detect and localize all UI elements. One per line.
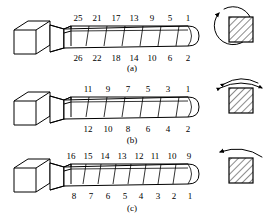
tooth-number: 2 [172,191,177,201]
tooth-number: 7 [89,191,94,201]
single-arc-arrow [220,149,262,157]
tooth-number: 5 [168,13,173,23]
double-headed-arc-arrow [220,83,262,88]
tooth-number: 8 [126,124,131,134]
tooth-number: 9 [106,84,111,94]
tooth-number: 14 [101,151,111,161]
tooth-number: 1 [188,191,193,201]
panel-c-cross-section [220,149,262,183]
tooth-number: 6 [146,124,151,134]
tooth-number: 10 [168,151,178,161]
tooth-number: 11 [84,84,93,94]
panel-c-handle-block [14,159,71,192]
tooth-number: 5 [123,191,128,201]
panel-c-segmented-bar [64,164,199,186]
tooth-number: 25 [74,13,84,23]
tooth-number: 1 [186,13,191,23]
panel-b-bottom-numbers: 12 10 8 6 4 2 [84,124,191,134]
tooth-number: 1 [186,84,191,94]
tooth-number: 8 [72,191,77,201]
tooth-number: 4 [139,191,144,201]
tooth-number: 12 [84,124,93,134]
panel-b-cross-section [220,79,262,113]
tooth-number: 22 [93,53,102,63]
panel-a-bottom-numbers: 26 22 18 14 10 6 2 [74,53,191,63]
panel-c: 16 15 14 13 12 11 10 9 8 7 6 5 4 3 2 1 (… [14,149,262,213]
tooth-number: 7 [126,84,131,94]
panel-caption-a: (a) [127,63,137,73]
tooth-number: 17 [112,13,122,23]
panel-a-top-numbers: 25 21 17 13 9 5 1 [74,13,191,23]
panel-a-cross-section [214,7,253,45]
panel-b-top-numbers: 11 9 7 5 3 1 [84,84,191,94]
panel-a: 25 21 17 13 9 5 1 26 22 18 14 10 6 2 (a) [14,7,253,73]
figure-container: 25 21 17 13 9 5 1 26 22 18 14 10 6 2 (a) [0,0,271,219]
tooth-number: 21 [93,13,102,23]
tooth-number: 12 [135,151,144,161]
tooth-number: 3 [156,191,161,201]
panel-b-handle-block [14,92,71,125]
tooth-number: 26 [74,53,84,63]
hatched-square [229,158,253,183]
panel-caption-c: (c) [127,203,137,213]
tooth-number: 3 [166,84,171,94]
panel-a-handle-block [14,21,71,54]
panel-caption-b: (b) [127,135,138,145]
tooth-number: 16 [67,151,77,161]
segmented-tool-diagram: 25 21 17 13 9 5 1 26 22 18 14 10 6 2 (a) [0,0,271,219]
tooth-number: 15 [84,151,94,161]
tooth-number: 18 [112,53,122,63]
tooth-number: 10 [104,124,114,134]
tooth-number: 14 [130,53,140,63]
panel-a-segmented-bar [64,26,199,48]
tooth-number: 2 [186,53,191,63]
panel-b: 11 9 7 5 3 1 12 10 8 6 4 2 (b) [14,79,262,145]
hatched-square [229,17,253,42]
tooth-number: 11 [151,151,160,161]
tooth-number: 13 [130,13,140,23]
hatched-square [229,88,253,113]
tooth-number: 2 [186,124,191,134]
tooth-number: 9 [150,13,155,23]
tooth-number: 13 [118,151,128,161]
tooth-number: 9 [187,151,192,161]
tooth-number: 6 [168,53,173,63]
panel-c-bottom-numbers: 8 7 6 5 4 3 2 1 [72,191,193,201]
panel-b-segmented-bar [64,97,199,119]
tooth-number: 10 [148,53,158,63]
tooth-number: 6 [106,191,111,201]
tooth-number: 4 [166,124,171,134]
tooth-number: 5 [146,84,151,94]
panel-c-top-numbers: 16 15 14 13 12 11 10 9 [67,151,192,161]
